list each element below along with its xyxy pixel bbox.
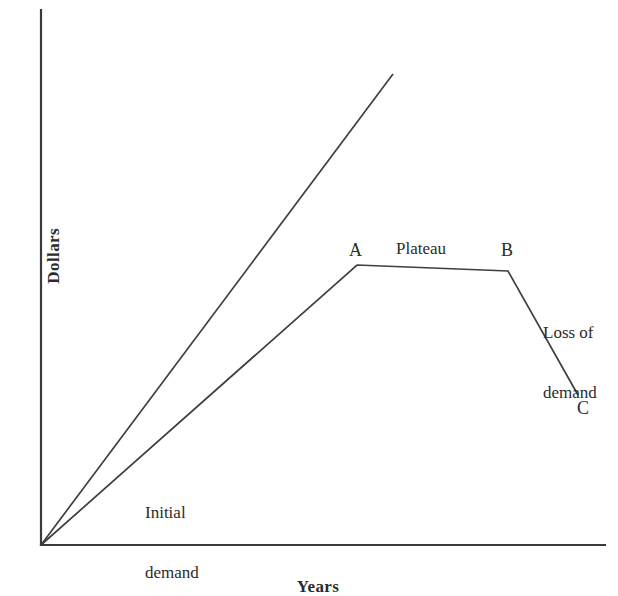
annotation-loss-of-demand-line1: Loss of (543, 323, 597, 343)
y-axis-title: Dollars (4, 172, 104, 228)
point-label-a: A (349, 240, 362, 261)
annotation-initial-demand-line2: demand (145, 563, 199, 583)
annotation-plateau: Plateau (396, 239, 446, 259)
series-line-projected-demand (41, 74, 393, 545)
annotation-initial-demand-line1: Initial (145, 503, 199, 523)
series-line-actual-demand (41, 265, 578, 545)
y-axis-title-text: Dollars (44, 228, 64, 284)
x-axis-title-text: Years (297, 577, 340, 596)
annotation-loss-of-demand-line2: demand (543, 383, 597, 403)
point-label-b: B (501, 240, 513, 261)
x-axis-title: Years (0, 557, 618, 596)
annotation-initial-demand: Initial demand (145, 463, 199, 596)
annotation-loss-of-demand: Loss of demand (543, 283, 597, 443)
